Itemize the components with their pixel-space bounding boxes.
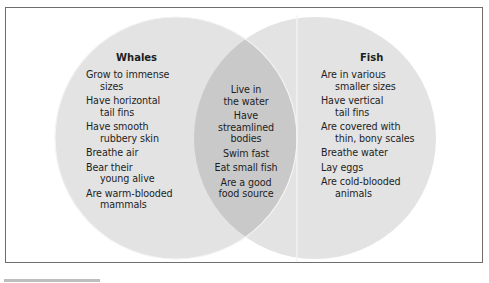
whales-list: Grow to immensesizes Have horizontaltail… [86, 69, 196, 214]
list-item: Are covered withthin, bony scales [321, 121, 436, 144]
list-item: Grow to immensesizes [86, 69, 196, 92]
list-item: Breathe air [86, 147, 196, 159]
fish-list: Are in varioussmaller sizes Have vertica… [321, 69, 436, 202]
list-item: Havestreamlinedbodies [198, 110, 294, 145]
list-item: Bear theiryoung alive [86, 162, 196, 185]
list-item: Are a goodfood source [198, 177, 294, 200]
list-item: Are cold-bloodedanimals [321, 176, 436, 199]
whales-title: Whales [116, 52, 157, 63]
list-item: Eat small fish [198, 162, 294, 174]
list-item: Have horizontaltail fins [86, 95, 196, 118]
overlap-list: Live inthe water Havestreamlinedbodies S… [198, 84, 294, 203]
list-item: Are warm-bloodedmammals [86, 188, 196, 211]
list-item: Have verticaltail fins [321, 95, 436, 118]
list-item: Are in varioussmaller sizes [321, 69, 436, 92]
list-item: Have smoothrubbery skin [86, 121, 196, 144]
list-item: Live inthe water [198, 84, 294, 107]
list-item: Swim fast [198, 148, 294, 160]
list-item: Lay eggs [321, 162, 436, 174]
fish-title: Fish [360, 52, 383, 63]
list-item: Breathe water [321, 147, 436, 159]
footer-rule [4, 279, 100, 282]
